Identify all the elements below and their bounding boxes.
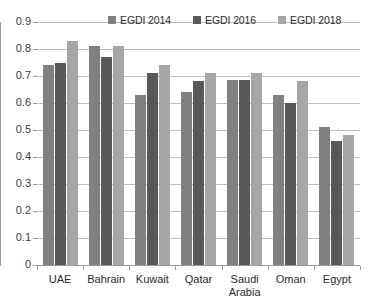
y-tick-mark [33, 211, 37, 212]
x-tick-label: Egypt [314, 273, 360, 286]
x-axis-line [37, 265, 360, 266]
y-tick-mark [33, 130, 37, 131]
bar[interactable] [227, 80, 238, 265]
bar-group [129, 22, 175, 265]
bar[interactable] [135, 95, 146, 265]
bar[interactable] [89, 46, 100, 265]
bar[interactable] [55, 63, 66, 266]
y-tick-label: 0.3 [16, 177, 31, 189]
bar[interactable] [181, 92, 192, 265]
x-tick-mark [129, 266, 130, 270]
bar[interactable] [273, 95, 284, 265]
y-tick-mark [33, 76, 37, 77]
legend-label: EGDI 2016 [205, 14, 256, 26]
bar[interactable] [297, 81, 308, 265]
y-tick-label: 0.5 [16, 123, 31, 135]
bar[interactable] [331, 141, 342, 265]
x-tick-label: Kuwait [129, 273, 175, 286]
bar[interactable] [67, 41, 78, 265]
x-tick-mark [83, 266, 84, 270]
x-tick-mark [268, 266, 269, 270]
bar-group [314, 22, 360, 265]
x-tick-label: UAE [37, 273, 83, 286]
bar[interactable] [113, 46, 124, 265]
x-tick-mark [175, 266, 176, 270]
y-tick-label: 0.4 [16, 150, 31, 162]
bar-group [83, 22, 129, 265]
y-tick-mark [33, 184, 37, 185]
bar[interactable] [159, 65, 170, 265]
x-tick-mark [360, 266, 361, 270]
x-tick-label: Oman [268, 273, 314, 286]
y-tick-mark [33, 49, 37, 50]
legend-label: EGDI 2018 [290, 14, 341, 26]
x-tick-mark [222, 266, 223, 270]
legend-swatch-icon [278, 16, 286, 24]
legend-swatch-icon [108, 16, 116, 24]
bar[interactable] [285, 103, 296, 265]
bar-chart: EGDI 2014EGDI 2016EGDI 2018 0.90.80.70.6… [0, 0, 373, 308]
legend-swatch-icon [193, 16, 201, 24]
bar[interactable] [101, 57, 112, 265]
bar[interactable] [251, 73, 262, 265]
y-tick-label: 0.9 [16, 15, 31, 27]
x-tick-label: Qatar [175, 273, 221, 286]
chart-legend: EGDI 2014EGDI 2016EGDI 2018 [108, 13, 341, 27]
bar-group [175, 22, 221, 265]
y-tick-label: 0.2 [16, 204, 31, 216]
y-tick-label: 0.7 [16, 69, 31, 81]
x-tick-label: Saudi Arabia [222, 273, 268, 299]
legend-entry[interactable]: EGDI 2014 [108, 14, 171, 26]
y-axis-labels: 0.90.80.70.60.50.40.30.20.10 [0, 0, 31, 308]
legend-entry[interactable]: EGDI 2018 [278, 14, 341, 26]
y-tick-label: 0 [25, 258, 31, 270]
y-tick-mark [33, 238, 37, 239]
bar-group [222, 22, 268, 265]
bar[interactable] [319, 127, 330, 265]
y-tick-label: 0.6 [16, 96, 31, 108]
x-tick-mark [37, 266, 38, 270]
legend-label: EGDI 2014 [120, 14, 171, 26]
bar[interactable] [343, 135, 354, 265]
bar[interactable] [193, 81, 204, 265]
bar-group [37, 22, 83, 265]
bar[interactable] [239, 80, 250, 265]
x-tick-mark [314, 266, 315, 270]
y-axis-line [0, 22, 1, 266]
x-tick-label: Bahrain [83, 273, 129, 286]
y-tick-mark [33, 103, 37, 104]
y-tick-mark [33, 157, 37, 158]
bars-layer [37, 22, 360, 265]
bar[interactable] [43, 65, 54, 265]
y-tick-label: 0.1 [16, 231, 31, 243]
y-tick-label: 0.8 [16, 42, 31, 54]
bar[interactable] [205, 73, 216, 265]
legend-entry[interactable]: EGDI 2016 [193, 14, 256, 26]
bar[interactable] [147, 73, 158, 265]
bar-group [268, 22, 314, 265]
y-tick-mark [33, 22, 37, 23]
